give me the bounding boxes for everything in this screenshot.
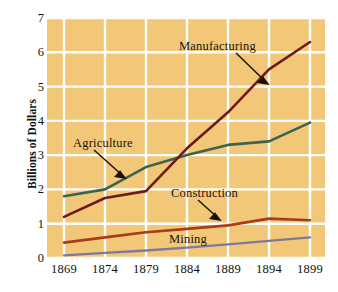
x-tick-label: 1899 <box>280 262 338 276</box>
y-tick-label: 7 <box>28 12 44 24</box>
arrow-head-agriculture <box>116 172 126 179</box>
y-tick-label: 2 <box>28 183 44 195</box>
series-annotation-construction: Construction <box>171 187 238 200</box>
y-tick-label: 5 <box>28 81 44 93</box>
line-chart-figure: Billions of Dollars 7 6 5 4 3 2 1 0 <box>0 0 338 292</box>
series-annotation-mining: Mining <box>169 233 207 246</box>
arrow-line-agriculture <box>94 150 122 175</box>
arrow-head-construction <box>211 214 221 221</box>
y-axis-tick-labels: 7 6 5 4 3 2 1 0 <box>26 0 44 292</box>
plot-area: Manufacturing Agriculture Construction M… <box>47 18 325 258</box>
y-tick-label: 3 <box>28 149 44 161</box>
y-tick-label: 1 <box>28 218 44 230</box>
y-tick-label: 6 <box>28 46 44 58</box>
series-annotation-agriculture: Agriculture <box>73 137 133 150</box>
arrow-line-manufacturing <box>236 53 265 81</box>
y-tick-label: 4 <box>28 115 44 127</box>
series-annotation-manufacturing: Manufacturing <box>179 40 256 53</box>
